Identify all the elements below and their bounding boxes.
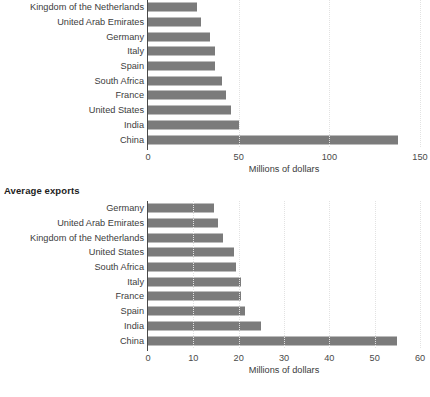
category-label: Germany [106,203,144,213]
x-tick-label: 40 [324,352,334,364]
bar [148,32,210,41]
category-label: Kingdom of the Netherlands [30,233,144,243]
bar [148,233,223,242]
bar-row: China [0,132,430,147]
bar [148,91,226,100]
category-label: Italy [127,46,144,56]
category-label: France [115,90,144,100]
x-axis-ticks: 050100150 [0,151,430,163]
gridline [239,201,240,348]
bar-row: South Africa [0,260,430,275]
gridline [329,201,330,348]
category-label: United Arab Emirates [57,218,144,228]
x-tick-label: 100 [322,151,337,163]
bar [148,18,201,27]
bar-row: Spain [0,304,430,319]
gridline [284,201,285,348]
category-label: Spain [121,61,145,71]
x-axis-ticks: 0102030405060 [0,352,430,364]
x-tick-label: 50 [370,352,380,364]
x-tick-label: 60 [415,352,425,364]
chart-average-exports: Average exports GermanyUnited Arab Emira… [0,185,430,397]
category-label: South Africa [94,262,144,272]
bar-row: United Arab Emirates [0,15,430,30]
bar-rows-bottom: GermanyUnited Arab EmiratesKingdom of th… [0,201,430,348]
x-tick-label: 0 [145,151,150,163]
bar-row: China [0,333,430,348]
y-axis-line [147,201,148,351]
gridline [420,0,421,147]
x-axis-title: Millions of dollars [249,365,319,375]
bar [148,248,234,257]
category-label: United States [89,105,144,115]
bar-row: India [0,319,430,334]
bar [148,277,241,286]
bar [148,135,398,144]
bar-row: Germany [0,29,430,44]
gridline [420,201,421,348]
bar [148,263,236,272]
bar [148,292,241,301]
bar [148,106,231,115]
bar-rows-top: Kingdom of the NetherlandsUnited Arab Em… [0,0,430,147]
gridline [193,201,194,348]
category-label: India [124,120,144,130]
chart-average-imports: Kingdom of the NetherlandsUnited Arab Em… [0,0,430,178]
category-label: Germany [106,32,144,42]
gridline [239,0,240,147]
bar-row: Germany [0,201,430,216]
x-axis-title: Millions of dollars [249,164,319,174]
gridline [375,201,376,348]
x-tick-label: 150 [412,151,427,163]
bar [148,62,215,71]
x-tick-label: 0 [145,352,150,364]
category-label: India [124,321,144,331]
bar-row: Italy [0,274,430,289]
x-tick-label: 10 [188,352,198,364]
x-tick-label: 30 [279,352,289,364]
bar [148,120,239,129]
bar-row: United Arab Emirates [0,216,430,231]
bar [148,76,222,85]
bar-row: France [0,289,430,304]
category-label: China [120,336,144,346]
bar-row: United States [0,245,430,260]
bar [148,219,218,228]
y-axis-line [147,0,148,150]
gridline [329,0,330,147]
page-title: Average exports [4,185,80,196]
bar [148,47,215,56]
bar [148,204,214,213]
category-label: China [120,135,144,145]
bar [148,3,197,12]
bar-row: South Africa [0,73,430,88]
bar-row: India [0,118,430,133]
category-label: Italy [127,277,144,287]
category-label: Spain [121,306,145,316]
category-label: Kingdom of the Netherlands [30,2,144,12]
bar-row: United States [0,103,430,118]
bar [148,307,245,316]
x-tick-label: 20 [234,352,244,364]
bar-row: Kingdom of the Netherlands [0,0,430,15]
bar-row: France [0,88,430,103]
bar-row: Spain [0,59,430,74]
x-tick-label: 50 [234,151,244,163]
bar [148,321,261,330]
bar [148,336,397,345]
bar-row: Kingdom of the Netherlands [0,230,430,245]
category-label: France [115,291,144,301]
category-label: United Arab Emirates [57,17,144,27]
category-label: United States [89,247,144,257]
category-label: South Africa [94,76,144,86]
bar-row: Italy [0,44,430,59]
